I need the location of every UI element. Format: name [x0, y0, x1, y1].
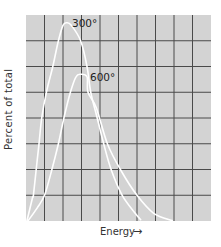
arrow-right-icon: →: [133, 225, 142, 238]
energy-distribution-chart: [0, 0, 221, 247]
curve-label-600: 600°: [90, 71, 115, 83]
x-axis-label: Energy: [100, 226, 135, 237]
y-axis-label: Percent of total: [3, 69, 14, 150]
curve-label-300: 300°: [72, 17, 97, 29]
